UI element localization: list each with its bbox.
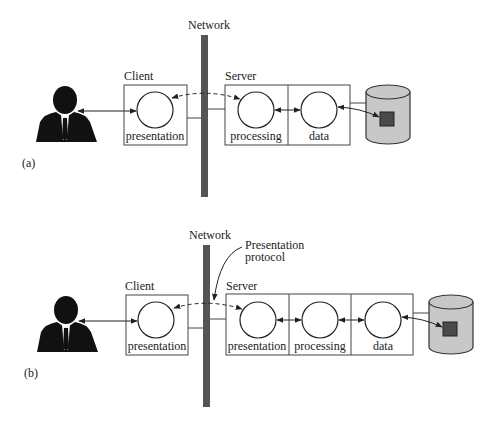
network-label: Network: [189, 228, 231, 242]
network-bar: [203, 245, 210, 407]
server-presentation-label: presentation: [228, 339, 287, 353]
server-processing-label: processing: [230, 129, 281, 143]
server-presentation-circle: [240, 302, 276, 338]
server-label: Server: [226, 279, 257, 293]
server-data-label: data: [309, 129, 330, 143]
panel-a: Network Client presentation Server proce…: [22, 18, 410, 197]
server-data-circle: [301, 92, 337, 128]
client-presentation-label: presentation: [126, 129, 185, 143]
client-presentation-label: presentation: [128, 339, 187, 353]
server-processing-circle: [238, 92, 274, 128]
client-presentation-circle: [137, 92, 173, 128]
client-presentation-circle: [138, 302, 174, 338]
network-label: Network: [188, 18, 230, 32]
server-processing-label: processing: [294, 339, 345, 353]
panel-b: Network Presentation protocol Client pre…: [24, 228, 473, 407]
server-processing-circle: [302, 302, 338, 338]
network-bar: [201, 35, 208, 197]
server-label: Server: [225, 69, 256, 83]
client-label: Client: [124, 69, 154, 83]
panel-b-tag: (b): [24, 366, 38, 380]
panel-a-tag: (a): [22, 156, 35, 170]
annotation-line2: protocol: [245, 250, 286, 264]
server-data-label: data: [373, 339, 394, 353]
person-icon: [36, 86, 97, 142]
person-icon: [37, 296, 98, 352]
client-label: Client: [125, 279, 155, 293]
server-data-circle: [365, 302, 401, 338]
